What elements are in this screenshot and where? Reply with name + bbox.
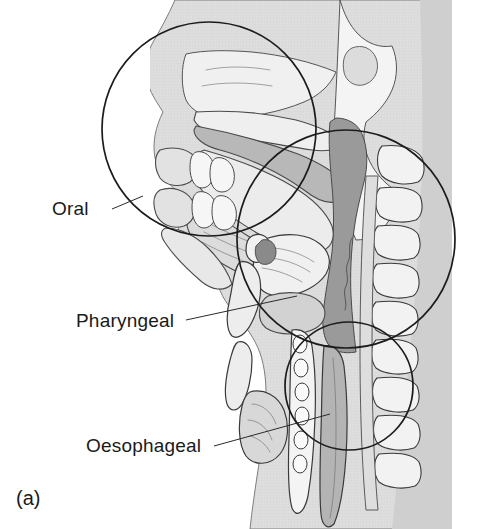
larynx xyxy=(259,293,325,334)
figure-container: Oral Pharyngeal Oesophageal (a) xyxy=(0,0,480,529)
sphenoid-sinus xyxy=(343,46,377,85)
label-pharyngeal: Pharyngeal xyxy=(76,310,174,331)
figure-caption: (a) xyxy=(16,487,40,509)
anatomy-figure: Oral Pharyngeal Oesophageal (a) xyxy=(0,0,480,529)
label-oral: Oral xyxy=(52,198,89,219)
label-oesophageal: Oesophageal xyxy=(86,435,201,456)
vallecula xyxy=(255,240,276,265)
